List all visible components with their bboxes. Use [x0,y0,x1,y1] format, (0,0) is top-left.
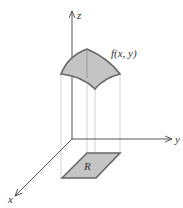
surface-label: f(x, y) [111,47,137,60]
double-integral-diagram: R z y x f(x, y) [0,0,183,208]
region-label: R [83,160,91,172]
y-axis-label: y [174,133,180,145]
region-r [62,153,120,178]
x-axis [15,139,72,196]
x-axis-label: x [7,193,13,205]
z-axis-label: z [76,9,82,21]
